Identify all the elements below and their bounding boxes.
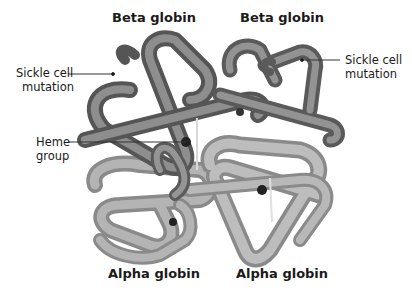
sickle-cell-mutation-left-label: Sickle cell mutation [16,66,74,94]
beta-globin-top-left-label: Beta globin [112,10,196,25]
alpha-globin-chains [94,144,326,259]
alpha-globin-bottom-right-label: Alpha globin [236,266,328,281]
heme-group-label: Heme group [36,135,70,163]
beta-globin-top-right-label: Beta globin [240,10,324,25]
alpha-globin-bottom-left-label: Alpha globin [108,266,200,281]
sickle-cell-mutation-right-label: Sickle cell mutation [345,53,402,81]
